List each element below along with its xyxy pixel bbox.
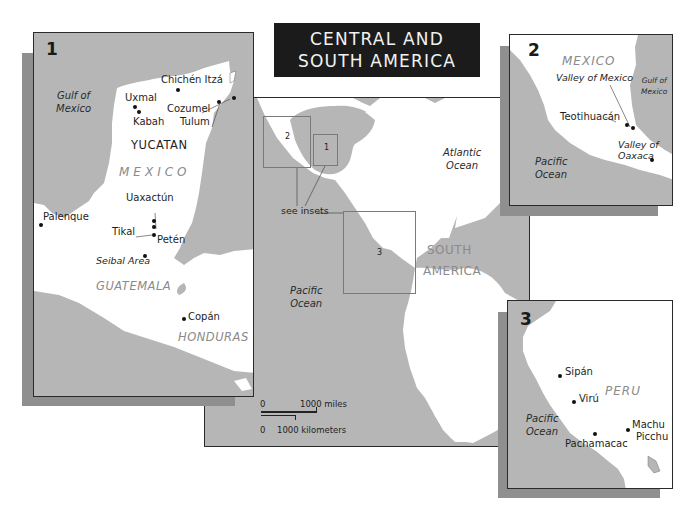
pacific-ocean-label: PacificOcean (290, 284, 322, 310)
pacific-ocean-label-inset2: PacificOcean (535, 155, 567, 181)
map-title: CENTRAL AND SOUTH AMERICA (274, 23, 480, 77)
scale-miles-label: 1000 miles (300, 400, 347, 409)
site-label-teotihuacan: Teotihuacán (560, 112, 620, 122)
inset-marker-3-label: 3 (377, 248, 382, 257)
site-label-copan: Copán (188, 312, 220, 322)
region-label-yucatan: YUCATAN (131, 140, 188, 152)
region-label-honduras: HONDURAS (178, 332, 249, 344)
site-dot-teotihuacan (625, 123, 629, 127)
region-label-guatemala: GUATEMALA (96, 281, 171, 293)
south-america-label: SOUTHAMERICA (423, 240, 481, 282)
inset-marker-box-2[interactable] (263, 116, 311, 168)
inset2-valley-of-mexico: 2 MEXICO Valley of Mexico Gulf ofMexico … (509, 34, 673, 206)
site-label-viru: Virú (579, 394, 599, 404)
site-dot-palenque (39, 223, 43, 227)
scale-km-bar (261, 415, 296, 416)
site-label-pachamacac: Pachamacac (565, 439, 628, 449)
site-dot-uaxactun (152, 219, 156, 223)
site-dot-copan (182, 317, 186, 321)
site-dot-sipan (558, 374, 562, 378)
site-dot-valley-of-mexico (631, 126, 635, 130)
scale-km-zero: 0 (260, 426, 265, 435)
site-label-seibal: Seibal Area (96, 256, 150, 266)
site-label-palenque: Palenque (43, 212, 89, 222)
see-insets-label: see insets (281, 206, 329, 216)
inset3-number: 3 (520, 311, 532, 328)
site-dot-peten (152, 233, 156, 237)
site-label-uaxactun: Uaxactún (126, 193, 174, 203)
atlantic-ocean-label: AtlanticOcean (443, 146, 481, 172)
site-dot-viru (572, 400, 576, 404)
site-label-machu-picchu: MachuPicchu (632, 419, 668, 443)
scale-miles-bar (261, 411, 317, 413)
inset3-peru: 3 Sipán PERU Virú PacificOcean Pachamaca… (507, 300, 673, 489)
scale-miles-zero: 0 (260, 400, 265, 409)
site-label-tulum: Tulum (180, 117, 210, 127)
region-label-peru: PERU (605, 385, 641, 397)
site-label-cozumel: Cozumel (167, 104, 210, 114)
inset1-yucatan: 1 Gulf ofMexico Chichén Itzá Uxmal Kabah… (33, 32, 254, 397)
site-dot-pachamacac (593, 432, 597, 436)
inset-marker-1-label: 1 (324, 143, 329, 152)
scale-tick (316, 407, 317, 412)
scale-tick (295, 415, 296, 420)
scale-km-label: 1000 kilometers (277, 426, 346, 435)
pacific-ocean-label-inset3: PacificOcean (526, 412, 558, 438)
title-line-1: CENTRAL AND (274, 28, 480, 50)
site-label-sipan: Sipán (565, 367, 593, 377)
site-dot-oaxaca (650, 158, 654, 162)
site-dot-tikal (152, 225, 156, 229)
title-line-2: SOUTH AMERICA (274, 50, 480, 72)
region-label-mexico: MEXICO (119, 166, 191, 178)
site-dot-machu-picchu (626, 428, 630, 432)
site-label-tikal: Tikal (112, 227, 135, 237)
inset-marker-2-label: 2 (285, 132, 290, 141)
site-label-peten: Petén (157, 235, 185, 245)
